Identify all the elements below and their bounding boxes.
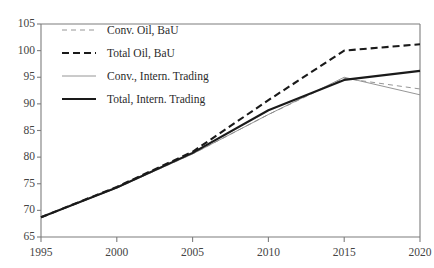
x-tick-label: 2005 (168, 246, 218, 258)
x-tick-label: 2000 (92, 246, 142, 258)
y-tick-label: 75 (5, 177, 35, 189)
legend-item: Total Oil, BaU (62, 41, 242, 64)
legend-item-label: Conv., Intern. Trading (107, 70, 209, 82)
y-tick-label: 85 (5, 124, 35, 136)
legend-item: Conv., Intern. Trading (62, 64, 242, 87)
legend-item: Conv. Oil, BaU (62, 18, 242, 41)
x-tick-label: 2020 (395, 246, 434, 258)
x-tick-label: 2015 (319, 246, 369, 258)
legend-line-swatch-icon (62, 48, 96, 58)
chart-legend: Conv. Oil, BaUTotal Oil, BaUConv., Inter… (62, 18, 242, 110)
x-tick-label: 1995 (16, 246, 66, 258)
y-tick-label: 95 (5, 70, 35, 82)
x-tick-marks (41, 237, 420, 242)
legend-item-label: Total, Intern. Trading (107, 93, 205, 105)
x-tick-label: 2010 (243, 246, 293, 258)
y-tick-marks (37, 24, 41, 237)
y-tick-label: 65 (5, 230, 35, 242)
y-tick-label: 100 (5, 44, 35, 56)
legend-line-swatch-icon (62, 94, 96, 104)
y-tick-label: 90 (5, 97, 35, 109)
line-chart: 65707580859095100105 1995200020052010201… (0, 0, 434, 268)
y-tick-label: 80 (5, 150, 35, 162)
legend-item-label: Total Oil, BaU (107, 47, 175, 59)
legend-line-swatch-icon (62, 71, 96, 81)
y-tick-label: 105 (5, 17, 35, 29)
legend-item: Total, Intern. Trading (62, 87, 242, 110)
legend-item-label: Conv. Oil, BaU (107, 24, 178, 36)
y-tick-label: 70 (5, 203, 35, 215)
legend-line-swatch-icon (62, 25, 96, 35)
